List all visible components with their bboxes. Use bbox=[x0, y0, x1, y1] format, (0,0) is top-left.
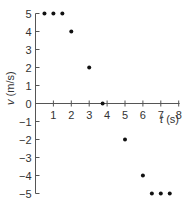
x-tick-label: 3 bbox=[86, 109, 92, 121]
y-tick-label: −2 bbox=[19, 134, 32, 146]
velocity-time-chart: 543210−1−2−3−4−512345678 t (s) v (m/s) bbox=[0, 0, 185, 205]
x-tick-label: 1 bbox=[50, 109, 56, 121]
y-tick-label: 3 bbox=[25, 44, 31, 56]
data-point bbox=[42, 12, 46, 16]
x-tick-label: 6 bbox=[140, 109, 146, 121]
y-tick-label: −5 bbox=[19, 188, 32, 200]
y-tick-label: −3 bbox=[19, 152, 32, 164]
x-axis-label: t (s) bbox=[160, 113, 179, 125]
data-point bbox=[69, 30, 73, 34]
data-point bbox=[87, 66, 91, 70]
y-tick-label: 0 bbox=[25, 98, 31, 110]
y-tick-label: 2 bbox=[25, 62, 31, 74]
data-point bbox=[123, 138, 127, 142]
y-tick-label: −4 bbox=[19, 170, 32, 182]
axes: 543210−1−2−3−4−512345678 bbox=[19, 8, 182, 200]
x-tick-label: 5 bbox=[122, 109, 128, 121]
data-point bbox=[159, 192, 163, 196]
y-tick-label: 5 bbox=[25, 8, 31, 20]
y-tick-label: 1 bbox=[25, 80, 31, 92]
y-tick-label: 4 bbox=[25, 26, 31, 38]
data-point bbox=[150, 192, 154, 196]
data-point bbox=[141, 174, 145, 178]
y-axis-label: v (m/s) bbox=[4, 71, 16, 105]
data-point bbox=[60, 12, 64, 16]
x-tick-label: 4 bbox=[104, 109, 110, 121]
data-point bbox=[51, 12, 55, 16]
y-tick-label: −1 bbox=[19, 116, 32, 128]
data-point bbox=[168, 192, 172, 196]
x-tick-label: 2 bbox=[68, 109, 74, 121]
data-point bbox=[101, 102, 105, 106]
